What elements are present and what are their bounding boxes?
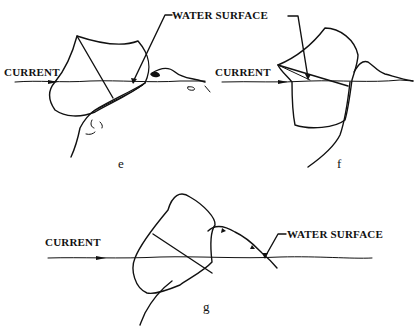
mound-e [152,68,205,82]
spar-line-f [278,65,348,86]
panel-f-drawing [222,16,413,167]
water-surface-line-e [15,81,205,82]
panel-letter-g: g [203,299,210,315]
current-label-g: CURRENT [45,236,101,248]
current-arrow-f-icon [278,80,288,84]
spar-line-g [153,234,212,273]
wave-curl-g [208,227,277,268]
current-arrow-g-icon [96,256,106,260]
bank-line-g [140,281,172,325]
bank-line-f [308,82,350,167]
bank-line-e [71,83,145,157]
diagram-canvas: WATER SURFACE CURRENT CURRENT CURRENT WA… [0,0,415,329]
stroke-e [205,86,210,92]
pebble-e [187,87,194,91]
mark-e3 [100,122,102,128]
water-pointer-f-arrow-icon [305,74,311,80]
water-surface-label-top: WATER SURFACE [172,9,268,21]
water-pointer-g [265,234,286,257]
diagram-drawing [0,0,415,329]
panel-letter-e: e [118,156,124,172]
panel-g-drawing [48,194,372,325]
sail-shape-g [133,194,215,293]
panel-e-drawing [15,15,210,157]
sail-shape-e [50,36,149,116]
water-surface-line-f [222,80,413,82]
water-surface-label-g: WATER SURFACE [287,228,383,240]
spar-line-e [77,36,113,98]
mound-f [354,62,413,81]
wave-arrow-g-icon [221,228,226,233]
current-label-e: CURRENT [4,66,60,78]
panel-letter-f: f [337,156,341,172]
mark-e1 [91,120,94,128]
mark-e2 [86,132,95,134]
current-label-f: CURRENT [215,66,271,78]
